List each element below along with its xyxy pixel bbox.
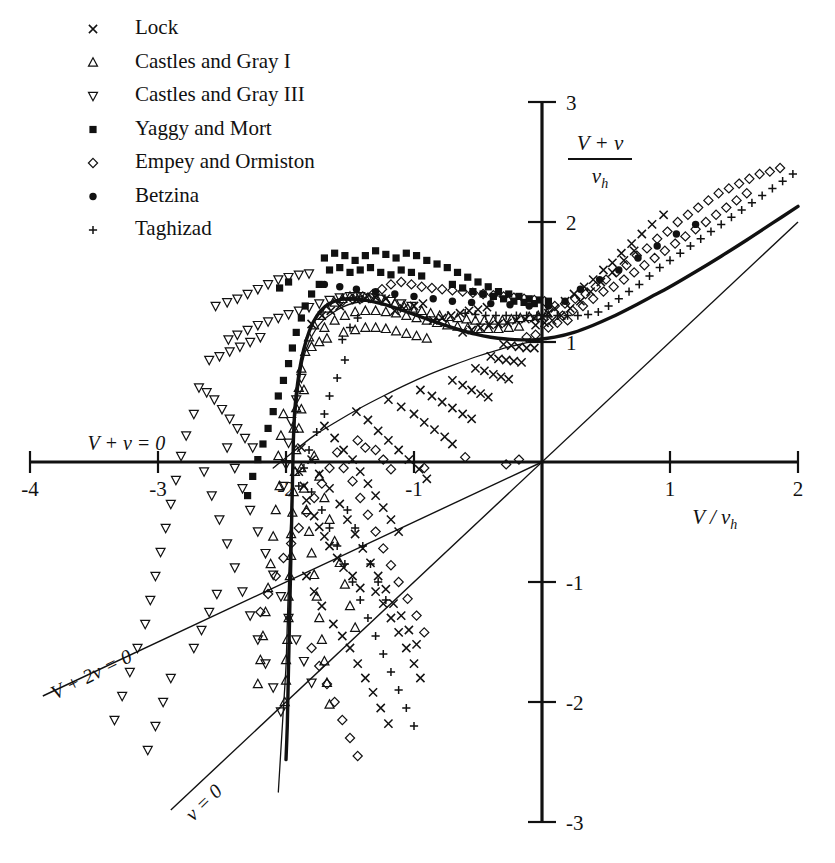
data-point bbox=[615, 266, 622, 273]
data-point bbox=[430, 295, 437, 302]
data-point bbox=[526, 302, 533, 309]
data-point bbox=[352, 257, 359, 264]
data-point bbox=[285, 278, 292, 285]
y-tick-label: -3 bbox=[566, 811, 584, 835]
data-point bbox=[362, 252, 369, 259]
data-point bbox=[372, 288, 379, 295]
data-point bbox=[408, 269, 415, 276]
y-tick-label: 3 bbox=[566, 91, 577, 115]
data-point bbox=[367, 264, 374, 271]
x-tick-label: -4 bbox=[21, 477, 39, 501]
data-point bbox=[289, 344, 296, 351]
legend-label: Lock bbox=[135, 15, 179, 39]
legend-label: Betzina bbox=[135, 183, 200, 207]
data-point bbox=[285, 360, 292, 367]
data-point bbox=[280, 377, 287, 384]
chart-canvas: -4-3-2-112-3-2-1123 V + vvhV / vh V + v … bbox=[0, 0, 835, 863]
data-point bbox=[561, 298, 568, 305]
data-point bbox=[382, 251, 389, 258]
data-point bbox=[336, 283, 343, 290]
data-point bbox=[433, 260, 440, 267]
data-point bbox=[336, 264, 343, 271]
data-point bbox=[276, 284, 283, 291]
data-point bbox=[577, 286, 584, 293]
data-point bbox=[391, 290, 398, 297]
data-point bbox=[506, 301, 513, 308]
data-point bbox=[454, 269, 461, 276]
data-point bbox=[298, 314, 305, 321]
data-point bbox=[321, 281, 328, 288]
data-point bbox=[264, 425, 271, 432]
figure-root: -4-3-2-112-3-2-1123 V + vvhV / vh V + v … bbox=[0, 0, 835, 863]
data-point bbox=[293, 329, 300, 336]
data-point bbox=[692, 221, 699, 228]
data-point bbox=[413, 252, 420, 259]
data-point bbox=[464, 274, 471, 281]
legend-label: Taghizad bbox=[135, 216, 212, 240]
data-point bbox=[244, 492, 251, 499]
x-tick-label: 2 bbox=[793, 477, 804, 501]
data-point bbox=[387, 271, 394, 278]
data-point bbox=[474, 278, 481, 285]
data-point bbox=[545, 302, 552, 309]
data-point bbox=[357, 266, 364, 273]
legend-label: Castles and Gray III bbox=[135, 82, 305, 106]
label-v-plus-v-zero: V + v = 0 bbox=[88, 432, 166, 454]
data-point bbox=[254, 456, 261, 463]
data-point bbox=[341, 252, 348, 259]
data-point bbox=[326, 266, 333, 273]
data-point bbox=[302, 302, 309, 309]
data-point bbox=[259, 440, 266, 447]
legend-label: Yaggy and Mort bbox=[135, 116, 272, 140]
data-point bbox=[468, 299, 475, 306]
x-tick-label: -3 bbox=[149, 477, 167, 501]
data-point bbox=[403, 250, 410, 257]
legend-marker-filled-square-icon bbox=[89, 126, 96, 133]
data-point bbox=[459, 284, 466, 291]
y-axis-label-numerator: V + v bbox=[577, 131, 624, 155]
data-point bbox=[410, 293, 417, 300]
data-point bbox=[353, 286, 360, 293]
data-point bbox=[634, 254, 641, 261]
data-point bbox=[346, 269, 353, 276]
data-point bbox=[673, 230, 680, 237]
data-point bbox=[249, 473, 256, 480]
legend-marker-filled-circle-icon bbox=[89, 193, 96, 200]
y-tick-label: 2 bbox=[566, 211, 577, 235]
data-point bbox=[331, 250, 338, 257]
data-point bbox=[418, 272, 425, 279]
x-tick-label: -1 bbox=[405, 477, 423, 501]
data-point bbox=[372, 247, 379, 254]
data-point bbox=[321, 254, 328, 261]
y-tick-label: -1 bbox=[566, 571, 584, 595]
data-point bbox=[377, 269, 384, 276]
data-point bbox=[392, 254, 399, 261]
data-point bbox=[487, 300, 494, 307]
data-point bbox=[398, 266, 405, 273]
data-point bbox=[654, 242, 661, 249]
data-point bbox=[423, 257, 430, 264]
data-point bbox=[449, 281, 456, 288]
data-point bbox=[444, 264, 451, 271]
data-point bbox=[308, 290, 315, 297]
data-point bbox=[485, 283, 492, 290]
legend-label: Castles and Gray I bbox=[135, 49, 291, 73]
data-point bbox=[596, 276, 603, 283]
legend-label: Empey and Ormiston bbox=[135, 149, 315, 173]
x-tick-label: 1 bbox=[665, 477, 676, 501]
data-point bbox=[275, 392, 282, 399]
data-point bbox=[270, 408, 277, 415]
data-point bbox=[449, 298, 456, 305]
y-tick-label: -2 bbox=[566, 691, 584, 715]
